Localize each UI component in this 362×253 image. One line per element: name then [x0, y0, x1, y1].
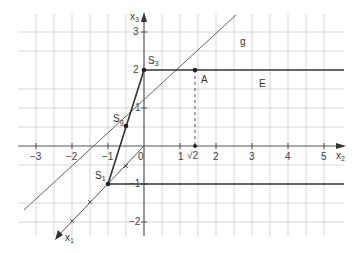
x3-axis-label: x3 — [130, 12, 139, 23]
label-a: A — [201, 75, 208, 85]
label-g: g — [240, 37, 246, 47]
coordinate-diagram — [0, 0, 362, 253]
x2-tick: 3 — [249, 152, 255, 162]
point-s3 — [142, 68, 147, 73]
x2-tick: 2 — [213, 152, 219, 162]
x2-tick: −3 — [30, 152, 41, 162]
x2-tick: 1 — [178, 152, 184, 162]
x2-tick: −1 — [102, 152, 113, 162]
x2-tick: −2 — [66, 152, 77, 162]
x2-arrow-icon — [336, 143, 346, 149]
point-a — [193, 68, 198, 73]
x3-tick: −1 — [129, 179, 140, 189]
label-s3: S3 — [148, 56, 159, 67]
x3-tick: −2 — [129, 217, 140, 227]
x3-arrow-icon — [141, 12, 147, 22]
x2-tick: 4 — [285, 152, 291, 162]
point-s1 — [106, 182, 111, 187]
x2-axis-label: x2 — [336, 151, 345, 162]
x3-tick: 2 — [133, 65, 139, 75]
x3-tick: 1 — [135, 103, 141, 113]
label-sg: Sg — [113, 114, 124, 125]
point-sg — [124, 124, 129, 129]
x2-tick: 0 — [138, 152, 144, 162]
point-sqrt2 — [193, 144, 197, 148]
x2-tick: 5 — [321, 152, 327, 162]
label-s1: S1 — [95, 171, 106, 182]
x2-tick-sqrt2: √2 — [187, 151, 198, 161]
label-e: E — [259, 79, 266, 89]
x3-tick: 3 — [133, 27, 139, 37]
grid — [18, 14, 344, 236]
x1-axis-label: x1 — [65, 233, 74, 244]
